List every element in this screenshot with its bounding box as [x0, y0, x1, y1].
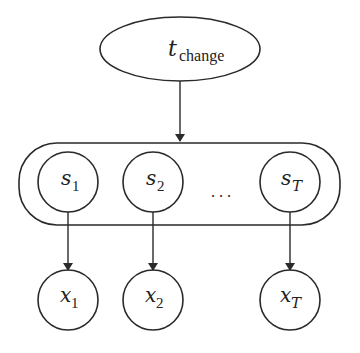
svg-text:x: x: [145, 283, 156, 307]
svg-text:2: 2: [156, 295, 164, 311]
svg-text:1: 1: [71, 295, 79, 311]
svg-text:s: s: [146, 166, 156, 190]
graphical-model-diagram: t change s 1 s 2 . . . s T x 1 x 2 x T: [0, 0, 360, 353]
svg-text:T: T: [291, 294, 302, 312]
t-change-label-sub: change: [179, 47, 224, 65]
t-change-node: t change: [100, 17, 260, 81]
obs-node-x1: x 1: [38, 270, 98, 330]
svg-text:x: x: [280, 283, 291, 307]
ellipsis: . . .: [211, 183, 231, 200]
svg-text:s: s: [281, 166, 291, 190]
svg-text:s: s: [61, 166, 71, 190]
obs-node-xT: x T: [260, 270, 320, 330]
state-node-sT: s T: [260, 152, 320, 212]
svg-text:x: x: [60, 283, 71, 307]
svg-text:2: 2: [157, 178, 165, 194]
obs-node-x2: x 2: [123, 270, 183, 330]
svg-text:1: 1: [72, 178, 80, 194]
state-node-s1: s 1: [38, 152, 98, 212]
t-change-label-base: t: [168, 36, 177, 61]
state-node-s2: s 2: [123, 152, 183, 212]
svg-text:T: T: [292, 177, 303, 195]
